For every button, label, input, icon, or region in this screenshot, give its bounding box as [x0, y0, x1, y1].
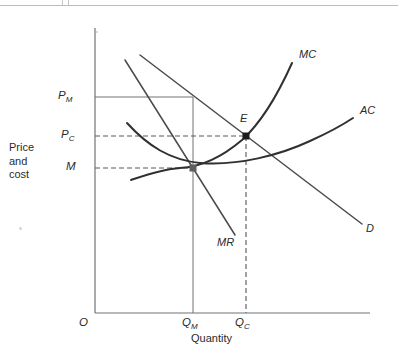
equilibrium-point-label: E	[240, 112, 247, 124]
economics-diagram-figure: PM PC M O QM QC E MC AC D MR Price and c…	[0, 0, 398, 357]
y-axis-caption-line-3: cost	[9, 168, 34, 182]
monopoly-point-marker	[190, 165, 197, 172]
demand-label: D	[366, 222, 374, 234]
subscript-M: M	[191, 322, 198, 331]
marginal-cost-curve	[131, 63, 292, 180]
subscript-C: C	[244, 322, 250, 331]
x-tick-label-quantity-competitive: QC	[235, 316, 250, 331]
y-tick-label-minimum-cost: M	[66, 160, 76, 172]
marginal-revenue-label: MR	[217, 236, 234, 248]
equilibrium-point-marker	[243, 133, 250, 140]
marginal-cost-label: MC	[299, 48, 316, 60]
subscript-M: M	[66, 95, 73, 104]
x-axis-caption: Quantity	[191, 332, 232, 344]
y-axis-caption: Price and cost	[9, 141, 34, 182]
demand-curve	[140, 55, 362, 224]
subscript-C: C	[69, 134, 75, 143]
plot-canvas	[0, 0, 398, 357]
monopoly-price-rectangle	[95, 97, 193, 313]
average-cost-label: AC	[360, 104, 375, 116]
x-tick-label-quantity-monopoly: QM	[182, 316, 198, 331]
y-axis-caption-line-2: and	[9, 155, 34, 169]
origin-label: O	[79, 316, 88, 328]
y-tick-label-price-monopoly: PM	[58, 89, 72, 104]
y-tick-label-price-competitive: PC	[61, 128, 74, 143]
y-axis-caption-line-1: Price	[9, 141, 34, 155]
